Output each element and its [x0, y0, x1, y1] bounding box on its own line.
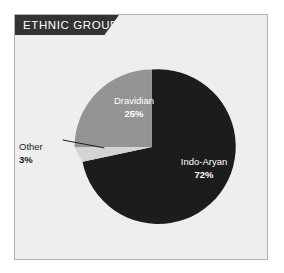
- panel-header-banner: ETHNIC GROUPS: [15, 15, 119, 35]
- pie-label-other-name: Other: [19, 141, 75, 154]
- pie-label-dravidian: Dravidian 25%: [97, 95, 171, 121]
- pie-label-indo-aryan-value: 72%: [161, 169, 247, 182]
- pie-label-dravidian-name: Dravidian: [97, 95, 171, 108]
- pie-label-other-value: 3%: [19, 154, 75, 167]
- pie-slice-indo-aryan[interactable]: [82, 69, 235, 224]
- pie-slice-other[interactable]: [75, 147, 152, 162]
- ethnic-groups-panel: ETHNIC GROUPS Dravidian 25% Indo-Aryan 7…: [14, 14, 268, 260]
- pie-label-indo-aryan-name: Indo-Aryan: [161, 156, 247, 169]
- page-title: ETHNIC GROUPS: [15, 19, 127, 31]
- pie-label-indo-aryan: Indo-Aryan 72%: [161, 156, 247, 182]
- pie-label-dravidian-value: 25%: [97, 108, 171, 121]
- pie-label-other: Other 3%: [19, 141, 75, 167]
- pie-chart: [15, 15, 267, 259]
